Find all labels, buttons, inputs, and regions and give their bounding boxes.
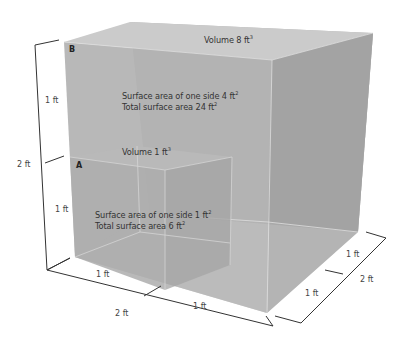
dim-right-lower: 1 ft xyxy=(305,289,318,298)
bottom-midpoint-tick xyxy=(144,286,161,296)
cube-b-side-area: Surface area of one side 4 ft2 xyxy=(122,91,238,102)
cube-b-inner-shadow xyxy=(268,33,373,232)
right-midpoint-tick xyxy=(325,270,343,274)
cube-drawing xyxy=(0,0,406,352)
cube-a-side-area: Surface area of one side 1 ft2 xyxy=(95,210,211,221)
cube-a-total-area: Total surface area 6 ft2 xyxy=(95,221,185,232)
dim-bottom-right: 1 ft xyxy=(193,302,206,311)
dim-bottom-total: 2 ft xyxy=(115,309,128,318)
cube-b-corner-label: B xyxy=(69,45,75,54)
dim-right-total: 2 ft xyxy=(360,275,373,284)
cube-diagram: B A Volume 8 ft3 Surface area of one sid… xyxy=(0,0,406,352)
cube-a-corner-label: A xyxy=(76,161,82,170)
left-dimension-line xyxy=(35,40,70,270)
cube-b-total-area: Total surface area 24 ft2 xyxy=(122,102,217,113)
dim-left-total: 2 ft xyxy=(17,160,30,169)
dim-bottom-left: 1 ft xyxy=(96,270,109,279)
cube-a-volume: Volume 1 ft3 xyxy=(122,147,171,158)
dim-right-upper: 1 ft xyxy=(346,250,359,259)
dim-left-lower: 1 ft xyxy=(55,205,68,214)
dim-left-upper: 1 ft xyxy=(45,96,58,105)
cube-b-volume: Volume 8 ft3 xyxy=(204,35,253,46)
left-midpoint-tick xyxy=(45,156,64,163)
